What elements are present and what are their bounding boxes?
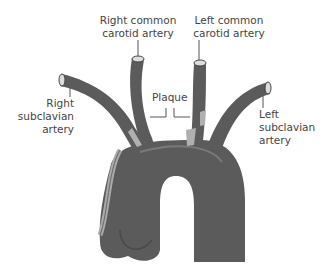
label-left-common-carotid: Left common carotid artery	[184, 14, 274, 40]
label-right-common-carotid: Right common carotid artery	[78, 14, 198, 40]
aorta	[100, 140, 245, 262]
label-left-subclavian: Left subclavian artery	[259, 108, 323, 147]
label-right-subclavian: Right subclavian artery	[10, 97, 74, 136]
label-plaque: Plaque	[152, 91, 187, 104]
